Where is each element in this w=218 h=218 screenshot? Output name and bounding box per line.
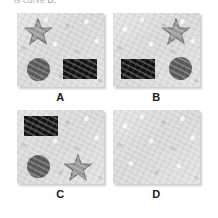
option-cell-a[interactable]: A (14, 11, 111, 110)
circle-shape (27, 58, 50, 81)
option-cell-b[interactable]: B (110, 11, 207, 110)
star-shape (162, 18, 190, 45)
option-panel-c[interactable] (17, 110, 104, 184)
circle-shape (27, 155, 50, 178)
circle-shape (169, 57, 192, 80)
star-shape (64, 154, 92, 181)
option-label-a: A (14, 91, 107, 103)
option-label-d: D (110, 188, 203, 200)
option-panel-b[interactable] (113, 13, 200, 87)
star-shape (24, 18, 52, 45)
rectangle-shape (121, 59, 155, 79)
caption-prefix: is curve (14, 0, 47, 5)
option-cell-d[interactable]: D (110, 108, 207, 207)
option-grid: A B C D (0, 11, 218, 218)
rectangle-shape (63, 59, 97, 79)
option-cell-c[interactable]: C (14, 108, 111, 207)
option-panel-a[interactable] (17, 13, 104, 87)
rectangle-shape (24, 116, 58, 136)
caption-answer-letter: D. (47, 0, 56, 5)
figure-caption: is curve D. (14, 0, 214, 5)
option-label-b: B (110, 91, 203, 103)
option-panel-d[interactable] (113, 110, 200, 184)
option-label-c: C (14, 188, 107, 200)
